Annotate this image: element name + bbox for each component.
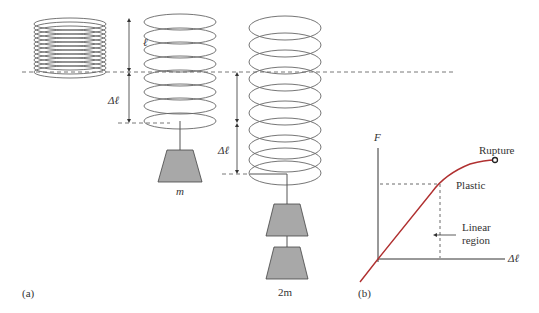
- rupture-label: Rupture: [479, 145, 514, 156]
- spring-diagram: [0, 0, 539, 313]
- mass-m: [158, 150, 202, 182]
- x-axis-label: Δℓ: [508, 253, 519, 264]
- panel-a-label: (a): [22, 288, 34, 299]
- linear-label-line2: region: [462, 235, 490, 246]
- plastic-label: Plastic: [456, 180, 485, 191]
- mass-2m-lower: [266, 247, 308, 279]
- y-axis-label: F: [374, 132, 381, 143]
- delta-length-label-1: Δℓ: [108, 95, 119, 106]
- length-label: ℓ: [143, 37, 148, 48]
- spring-mass-2m: [249, 16, 321, 185]
- linear-label-line1: Linear: [462, 222, 491, 233]
- rupture-point: [493, 158, 498, 163]
- mass-m-label: m: [176, 186, 184, 197]
- force-extension-graph: [360, 148, 505, 282]
- panel-b-label: (b): [358, 288, 371, 299]
- spring-unloaded: [34, 18, 106, 78]
- mass-2m-upper: [266, 204, 308, 236]
- spring-mass-m: [144, 14, 216, 129]
- delta-length-label-2: Δℓ: [218, 145, 229, 156]
- mass-2m-label: 2m: [278, 287, 292, 298]
